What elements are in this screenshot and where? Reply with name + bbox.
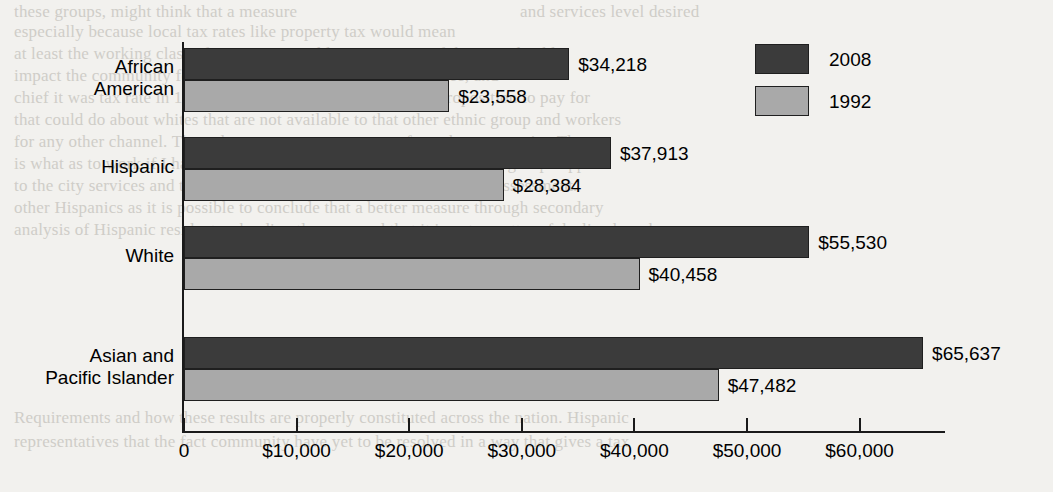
category-label-line: Pacific Islander: [6, 367, 174, 389]
bar-2008-white: [184, 226, 809, 258]
bar-value-label: $28,384: [513, 175, 582, 197]
bar-1992-african-american: [184, 80, 449, 112]
x-axis-tick-label: $60,000: [825, 440, 894, 462]
category-label-line: American: [6, 78, 174, 100]
x-axis-tick-label: 0: [179, 440, 190, 462]
bar-chart-figure: these groups, might think that a measure…: [0, 0, 1053, 492]
category-label-line: African: [6, 56, 174, 78]
x-axis-tick: [859, 418, 861, 432]
x-axis-tick-label: $40,000: [600, 440, 669, 462]
x-axis-tick-label: $30,000: [487, 440, 556, 462]
category-label: White: [6, 245, 174, 267]
legend-swatch-2008: [755, 44, 809, 74]
bar-value-label: $37,913: [620, 143, 689, 165]
category-label: Hispanic: [6, 156, 174, 178]
bar-value-label: $65,637: [932, 343, 1001, 365]
x-axis-tick: [633, 418, 635, 432]
bar-value-label: $23,558: [458, 86, 527, 108]
bar-value-label: $55,530: [818, 232, 887, 254]
bar-value-label: $34,218: [578, 54, 647, 76]
bar-value-label: $47,482: [728, 375, 797, 397]
x-axis-tick: [746, 418, 748, 432]
bar-2008-asian-and-pacific-islander: [184, 337, 923, 369]
category-label: Asian andPacific Islander: [6, 345, 174, 389]
legend-swatch-1992: [755, 86, 809, 116]
category-label-line: Hispanic: [6, 156, 174, 178]
category-label-line: Asian and: [6, 345, 174, 367]
bar-2008-african-american: [184, 48, 569, 80]
bar-1992-asian-and-pacific-islander: [184, 369, 719, 401]
bar-1992-white: [184, 258, 640, 290]
plot-area: 0$10,000$20,000$30,000$40,000$50,000$60,…: [0, 0, 1053, 492]
bar-1992-hispanic: [184, 169, 504, 201]
x-axis-tick-label: $50,000: [713, 440, 782, 462]
x-axis-tick-label: $10,000: [262, 440, 331, 462]
category-label-line: White: [6, 245, 174, 267]
category-label: AfricanAmerican: [6, 56, 174, 100]
x-axis-tick: [296, 418, 298, 432]
bar-2008-hispanic: [184, 137, 611, 169]
x-axis-tick: [408, 418, 410, 432]
bar-value-label: $40,458: [649, 264, 718, 286]
x-axis-tick-label: $20,000: [375, 440, 444, 462]
x-axis-tick: [521, 418, 523, 432]
legend-label-1992: 1992: [829, 91, 871, 113]
legend-label-2008: 2008: [829, 49, 871, 71]
x-axis-tick: [183, 418, 185, 432]
